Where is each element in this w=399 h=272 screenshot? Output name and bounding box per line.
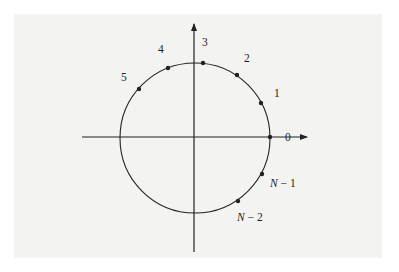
- point-3: [201, 61, 205, 65]
- label-4: 4: [158, 43, 164, 55]
- label-n-minus-2-suffix: − 2: [245, 211, 263, 223]
- point-n-minus-2: [236, 199, 240, 203]
- point-4: [166, 66, 170, 70]
- roots-of-unity-diagram: 0 1 2 3 4 5 N − 1 N − 2: [0, 0, 399, 272]
- label-n-minus-1: N − 1: [269, 177, 296, 189]
- point-1: [259, 101, 263, 105]
- label-n-minus-1-suffix: − 1: [278, 177, 296, 189]
- label-n-minus-2: N − 2: [236, 211, 263, 223]
- label-5: 5: [121, 71, 127, 83]
- point-n-minus-1: [260, 172, 264, 176]
- unit-circle: [120, 63, 270, 213]
- label-1: 1: [274, 87, 280, 99]
- label-0: 0: [285, 131, 291, 143]
- point-5: [137, 87, 141, 91]
- point-2: [235, 73, 239, 77]
- point-0: [268, 135, 272, 139]
- label-2: 2: [244, 52, 250, 64]
- label-3: 3: [202, 36, 208, 48]
